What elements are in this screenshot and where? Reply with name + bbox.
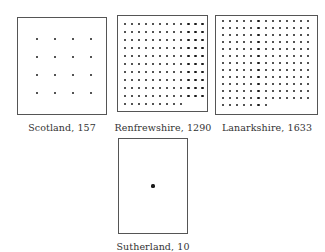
- population-dot: [300, 76, 302, 78]
- population-dot: [243, 20, 245, 22]
- population-dot: [286, 76, 288, 78]
- population-dot: [286, 97, 288, 99]
- population-dot: [286, 55, 288, 57]
- panel-caption: Lanarkshire, 1633: [222, 122, 312, 133]
- population-dot: [300, 83, 302, 85]
- population-dot: [131, 23, 133, 25]
- population-dot: [222, 41, 224, 43]
- population-dot: [293, 41, 295, 43]
- population-dot: [152, 23, 154, 25]
- population-dot: [173, 55, 175, 57]
- population-dot: [243, 55, 245, 57]
- population-dot: [152, 103, 154, 105]
- population-dot: [124, 55, 126, 57]
- population-dot: [201, 71, 203, 73]
- population-dot: [201, 47, 203, 49]
- population-dot: [236, 20, 238, 22]
- population-dot: [286, 41, 288, 43]
- population-dot: [300, 34, 302, 36]
- population-dot: [279, 20, 281, 22]
- population-dot: [159, 47, 161, 49]
- population-dot: [265, 104, 267, 106]
- population-dot: [201, 79, 203, 81]
- population-dot: [194, 23, 196, 25]
- population-dot: [229, 69, 231, 71]
- population-dot: [236, 41, 238, 43]
- population-dot: [138, 79, 140, 81]
- population-dot: [124, 87, 126, 89]
- population-dot: [250, 27, 252, 29]
- population-dot: [222, 76, 224, 78]
- population-dot: [243, 34, 245, 36]
- population-dot: [90, 56, 93, 59]
- population-dot: [307, 27, 309, 29]
- population-dot: [286, 27, 288, 29]
- population-dot: [286, 20, 288, 22]
- population-dot: [194, 39, 196, 41]
- population-dot: [36, 74, 39, 77]
- population-dot: [180, 47, 182, 49]
- population-dot: [145, 95, 147, 97]
- population-dot: [229, 83, 231, 85]
- population-dot: [222, 69, 224, 71]
- population-dot: [265, 97, 267, 99]
- population-dot: [159, 71, 161, 73]
- population-dot: [279, 34, 281, 36]
- population-dot: [272, 20, 274, 22]
- population-dot: [236, 27, 238, 29]
- population-dot: [173, 95, 175, 97]
- population-dot: [236, 34, 238, 36]
- population-dot: [124, 71, 126, 73]
- population-dot: [159, 79, 161, 81]
- population-dot: [279, 41, 281, 43]
- population-dot: [180, 55, 182, 57]
- population-dot: [229, 34, 231, 36]
- population-dot: [279, 48, 281, 50]
- population-dot: [90, 38, 93, 41]
- population-dot: [272, 83, 274, 85]
- population-dot: [124, 23, 126, 25]
- population-dot: [131, 47, 133, 49]
- population-dot: [131, 39, 133, 41]
- population-dot: [187, 31, 189, 33]
- population-dot: [300, 20, 302, 22]
- population-dot: [257, 69, 259, 71]
- population-dot: [272, 34, 274, 36]
- population-dot: [272, 27, 274, 29]
- population-dot: [257, 41, 259, 43]
- population-dot: [159, 31, 161, 33]
- population-dot: [250, 97, 252, 99]
- population-dot: [293, 76, 295, 78]
- population-dot: [250, 62, 252, 64]
- population-dot: [173, 71, 175, 73]
- population-dot: [152, 63, 154, 65]
- population-dot: [243, 41, 245, 43]
- population-dot: [236, 69, 238, 71]
- population-dot: [131, 55, 133, 57]
- population-dot: [124, 103, 126, 105]
- population-dot: [229, 104, 231, 106]
- population-dot: [194, 31, 196, 33]
- population-dot: [152, 79, 154, 81]
- population-dot: [243, 104, 245, 106]
- population-dot: [138, 55, 140, 57]
- population-dot: [229, 62, 231, 64]
- population-dot: [222, 20, 224, 22]
- panel-caption: Sutherland, 10: [116, 241, 189, 252]
- population-dot: [145, 103, 147, 105]
- population-dot: [250, 104, 252, 106]
- population-dot: [257, 20, 259, 22]
- population-dot: [138, 87, 140, 89]
- population-dot: [72, 92, 75, 95]
- population-dot: [265, 41, 267, 43]
- population-dot: [187, 39, 189, 41]
- population-dot: [201, 23, 203, 25]
- population-dot: [300, 69, 302, 71]
- population-dot: [173, 79, 175, 81]
- population-dot: [243, 62, 245, 64]
- population-dot: [307, 20, 309, 22]
- population-dot: [257, 55, 259, 57]
- population-dot: [222, 62, 224, 64]
- population-dot: [236, 83, 238, 85]
- population-dot: [180, 71, 182, 73]
